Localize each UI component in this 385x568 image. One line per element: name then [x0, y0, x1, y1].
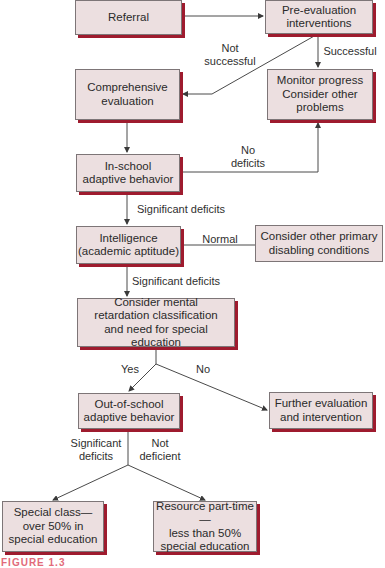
figure-caption: FIGURE 1.3 — [1, 557, 65, 568]
label-yes: Yes — [118, 363, 142, 376]
label-significant-deficits-3: Significant deficits — [70, 437, 122, 463]
label-no: No — [193, 363, 213, 376]
node-comprehensive-evaluation: Comprehensive evaluation — [75, 69, 180, 120]
node-out-of-school-adaptive-behavior: Out-of-school adaptive behavior — [78, 393, 180, 429]
label-successful: Successful — [320, 45, 380, 58]
node-pre-evaluation-interventions: Pre-evaluation interventions — [265, 0, 373, 34]
node-in-school-adaptive-behavior: In-school adaptive behavior — [76, 154, 180, 192]
node-other-primary-disabling-conditions: Consider other primary disabling conditi… — [255, 225, 383, 262]
label-not-deficient: Not deficient — [137, 437, 183, 463]
label-no-deficits: No deficits — [225, 144, 271, 170]
label-not-successful: Not successful — [200, 42, 260, 68]
label-significant-deficits-1: Significant deficits — [137, 203, 237, 216]
node-mental-retardation-classification: Consider mental retardation classificati… — [77, 298, 235, 347]
node-resource-part-time: Resource part-time— less than 50% specia… — [153, 501, 257, 552]
node-special-class: Special class— over 50% in special educa… — [2, 501, 104, 552]
node-monitor-progress: Monitor progress Consider other problems — [267, 69, 373, 120]
node-further-evaluation: Further evaluation and intervention — [269, 392, 373, 429]
label-significant-deficits-2: Significant deficits — [132, 275, 232, 288]
node-intelligence: Intelligence (academic aptitude) — [76, 226, 181, 264]
node-referral: Referral — [75, 0, 182, 35]
label-normal: Normal — [200, 233, 240, 246]
